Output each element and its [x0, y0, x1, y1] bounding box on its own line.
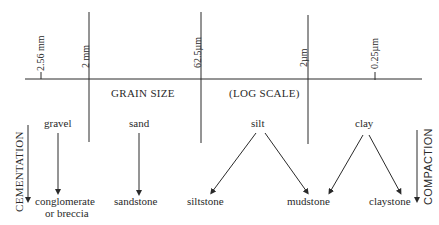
- tick-label-62.5um: 62.5µm: [192, 37, 203, 68]
- rock-conglomerate-line2: or breccia: [45, 207, 89, 219]
- arrow-silt-siltstone: [212, 133, 256, 192]
- sediment-sand: sand: [129, 117, 149, 129]
- arrow-clay-claystone: [369, 135, 400, 192]
- sediment-silt: silt: [251, 117, 264, 129]
- compaction-label: COMPACTION: [422, 128, 434, 205]
- tick-label-2mm: 2 mm: [80, 45, 91, 68]
- arrow-silt-mudstone: [265, 133, 307, 192]
- rock-conglomerate: conglomerate: [35, 195, 95, 207]
- sediment-clay: clay: [355, 117, 373, 129]
- tick-label-0.25um: 0.25µm: [369, 38, 380, 69]
- grain-size-title: GRAIN SIZE: [111, 87, 175, 99]
- rock-claystone: claystone: [369, 195, 411, 207]
- diagram-lines: [0, 0, 439, 225]
- sediment-gravel: gravel: [44, 117, 71, 129]
- rock-mudstone: mudstone: [287, 195, 330, 207]
- tick-label-2.56mm: 2.56 mm: [35, 35, 46, 71]
- rock-sandstone: sandstone: [114, 195, 157, 207]
- arrow-clay-mudstone: [330, 135, 363, 192]
- tick-label-2um: 2µm: [298, 48, 309, 67]
- cementation-label: CEMENTATION: [13, 131, 25, 212]
- rock-siltstone: siltstone: [187, 195, 224, 207]
- log-scale-subtitle: (LOG SCALE): [229, 87, 300, 99]
